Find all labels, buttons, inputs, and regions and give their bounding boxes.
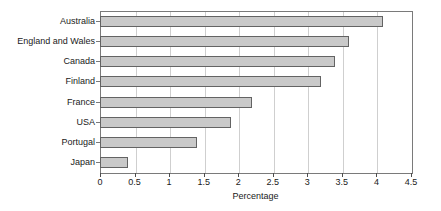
x-axis-tick-label: 3 <box>305 177 310 187</box>
bar-canada[interactable] <box>100 56 335 67</box>
bar-france[interactable] <box>100 97 252 108</box>
y-axis-label-canada: Canada <box>0 51 95 71</box>
y-axis-label-france: France <box>0 92 95 112</box>
bar-row <box>100 51 411 71</box>
y-axis-label-england-and-wales: England and Wales <box>0 31 95 51</box>
y-axis-tick <box>96 41 100 42</box>
x-axis-tick-label: 1 <box>167 177 172 187</box>
y-axis-tick <box>96 102 100 103</box>
bar-row <box>100 11 411 31</box>
bar-row <box>100 132 411 152</box>
y-axis-label-usa: USA <box>0 112 95 132</box>
x-axis-title: Percentage <box>100 191 411 201</box>
bar-japan[interactable] <box>100 157 128 168</box>
x-axis-tick-labels: 00.511.522.533.544.5 <box>0 177 441 191</box>
x-axis-tick-label: 0 <box>97 177 102 187</box>
x-axis-tick-label: 3.5 <box>336 177 349 187</box>
bar-finland[interactable] <box>100 76 321 87</box>
y-axis-tick <box>96 21 100 22</box>
bar-usa[interactable] <box>100 117 231 128</box>
y-axis-label-japan: Japan <box>0 152 95 172</box>
bar-row <box>100 112 411 132</box>
x-axis-tick-label: 2 <box>236 177 241 187</box>
y-axis-tick <box>96 61 100 62</box>
y-axis-label-portugal: Portugal <box>0 132 95 152</box>
bar-portugal[interactable] <box>100 137 197 148</box>
x-axis-tick-label: 1.5 <box>197 177 210 187</box>
bar-row <box>100 71 411 91</box>
y-axis-tick <box>96 122 100 123</box>
y-axis-label-finland: Finland <box>0 71 95 91</box>
x-axis-tick-label: 2.5 <box>267 177 280 187</box>
bar-chart: AustraliaEngland and WalesCanadaFinlandF… <box>0 0 441 211</box>
x-axis-tick-label: 0.5 <box>128 177 141 187</box>
bar-row <box>100 92 411 112</box>
x-axis-tick-label: 4 <box>374 177 379 187</box>
x-axis-tick-label: 4.5 <box>405 177 418 187</box>
y-axis-category-labels: AustraliaEngland and WalesCanadaFinlandF… <box>0 11 95 172</box>
y-axis-label-australia: Australia <box>0 11 95 31</box>
y-axis-tick <box>96 162 100 163</box>
bar-row <box>100 31 411 51</box>
y-axis-tick <box>96 142 100 143</box>
y-axis-tick <box>96 81 100 82</box>
bars-layer <box>100 11 411 172</box>
bar-row <box>100 152 411 172</box>
bar-england-and-wales[interactable] <box>100 36 349 47</box>
bar-australia[interactable] <box>100 16 383 27</box>
